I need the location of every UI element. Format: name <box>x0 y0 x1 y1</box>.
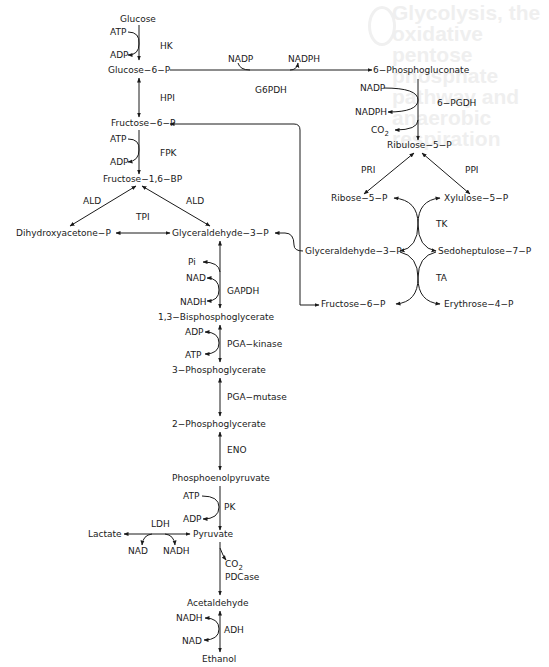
svg-text:CO2: CO2 <box>371 125 389 138</box>
tpi-enzyme-label: TPI <box>135 212 150 222</box>
ppi-enzyme-label: PPI <box>465 165 479 175</box>
fructose-16-bp-node: Fructose−1,6−BP <box>103 174 183 184</box>
svg-text:ATP: ATP <box>185 350 202 360</box>
ald-left-arrow <box>70 186 136 226</box>
acetaldehyde-node: Acetaldehyde <box>187 598 249 608</box>
ppi-arrow <box>422 153 470 194</box>
svg-text:NADP: NADP <box>360 83 386 93</box>
svg-text:ATP: ATP <box>183 491 200 501</box>
pyruvate-node: Pyruvate <box>193 529 234 539</box>
adh-cofactors: NADH NAD ADH <box>176 613 244 646</box>
pdcase-cofactors: CO2 PDCase <box>220 548 260 582</box>
dihydroxyacetone-p-node: Dihydroxyacetone−P <box>16 228 111 238</box>
svg-text:ADP: ADP <box>110 50 129 60</box>
fructose-6-p-ppp-node: Fructose−6−P <box>321 299 386 309</box>
ethanol-node: Ethanol <box>202 654 236 664</box>
pga-mutase-enzyme-label: PGA−mutase <box>227 392 287 402</box>
ald-right-arrow <box>142 186 210 226</box>
ta-enzyme-label: TA <box>435 273 448 283</box>
glyceraldehyde-3-p-ppp-node: Glyceraldehyde−3−P <box>305 246 402 256</box>
ald-left-label: ALD <box>83 196 101 206</box>
6-pgdh-cofactors: NADP NADPH CO2 6−PGDH <box>355 83 476 138</box>
pdcase-enzyme-label: PDCase <box>225 572 260 582</box>
svg-text:NADP: NADP <box>228 54 254 64</box>
fructose-6-p-node: Fructose−6−P <box>111 118 176 128</box>
gapdh-enzyme-label: GAPDH <box>227 286 259 296</box>
svg-text:NADH: NADH <box>180 297 207 307</box>
fpk-enzyme-label: FPK <box>160 148 178 158</box>
erythrose-4-p-node: Erythrose−4−P <box>444 299 514 309</box>
glyceraldehyde-3-p-node: Glyceraldehyde−3−P <box>172 228 269 238</box>
ribose-5-p-node: Ribose−5−P <box>331 193 388 203</box>
sedoheptulose-7-p-node: Sedoheptulose−7−P <box>438 246 532 256</box>
pri-enzyme-label: PRI <box>361 165 375 175</box>
hk-cofactors: ATP ADP HK <box>110 27 174 60</box>
lactate-node: Lactate <box>88 529 122 539</box>
g3p-return-connector <box>275 233 303 251</box>
svg-text:NADPH: NADPH <box>355 107 387 117</box>
tk-enzyme-label: TK <box>435 219 448 229</box>
svg-text:ADP: ADP <box>110 157 129 167</box>
fpk-cofactors: ATP ADP FPK <box>110 134 178 167</box>
pga-kinase-enzyme-label: PGA−kinase <box>227 339 283 349</box>
13-bisphosphoglycerate-node: 1,3−Bisphosphoglycerate <box>158 312 275 322</box>
pk-enzyme-label: PK <box>224 502 236 512</box>
glucose-node: Glucose <box>120 14 156 24</box>
metabolic-pathway-diagram: Glucose ATP ADP HK Glucose−6−P HPI Fruct… <box>0 0 549 667</box>
ldh-enzyme-label: LDH <box>151 519 170 529</box>
svg-text:NADH: NADH <box>163 546 190 556</box>
6-phosphogluconate-node: 6−Phosphogluconate <box>373 65 470 75</box>
svg-text:NADH: NADH <box>176 613 203 623</box>
svg-text:NAD: NAD <box>128 546 148 556</box>
transketolase-transaldolase-curves <box>394 198 440 304</box>
hk-enzyme-label: HK <box>160 41 174 51</box>
svg-text:ATP: ATP <box>110 134 127 144</box>
ldh-cofactors: LDH NAD NADH <box>128 519 190 556</box>
3-phosphoglycerate-node: 3−Phosphoglycerate <box>172 365 266 375</box>
svg-text:NAD: NAD <box>186 273 206 283</box>
xylulose-5-p-node: Xylulose−5−P <box>444 193 509 203</box>
svg-text:Glucose: Glucose <box>120 14 156 24</box>
ald-right-label: ALD <box>186 196 204 206</box>
svg-text:Pi: Pi <box>188 257 196 267</box>
g6pdh-enzyme-label: G6PDH <box>255 85 287 95</box>
2-phosphoglycerate-node: 2−Phosphoglycerate <box>172 419 266 429</box>
ribulose-5-p-node: Ribulose−5−P <box>387 140 452 150</box>
svg-text:ADP: ADP <box>183 514 202 524</box>
svg-text:NADPH: NADPH <box>288 54 320 64</box>
svg-text:CO2: CO2 <box>225 559 243 572</box>
svg-text:ATP: ATP <box>110 27 127 37</box>
phosphoenolpyruvate-node: Phosphoenolpyruvate <box>172 473 270 483</box>
svg-text:ADP: ADP <box>185 327 204 337</box>
adh-enzyme-label: ADH <box>224 625 244 635</box>
pk-cofactors: ATP ADP PK <box>183 491 236 524</box>
g6pdh-cofactors: NADP NADPH G6PDH <box>228 54 320 95</box>
svg-text:NAD: NAD <box>182 636 202 646</box>
eno-enzyme-label: ENO <box>227 445 247 455</box>
pga-kinase-cofactors: ADP ATP PGA−kinase <box>185 327 283 360</box>
hpi-enzyme-label: HPI <box>160 93 175 103</box>
6-pgdh-enzyme-label: 6−PGDH <box>437 98 476 108</box>
glucose-6-p-node: Glucose−6−P <box>108 65 171 75</box>
